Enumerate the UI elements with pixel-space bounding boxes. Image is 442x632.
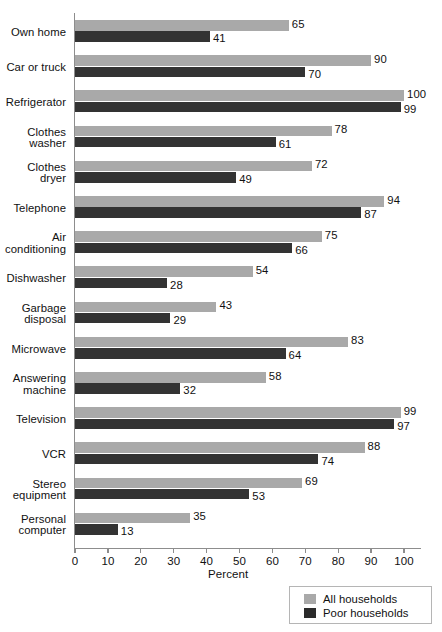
bar-value-label: 69 bbox=[305, 475, 318, 487]
bar-poor-households bbox=[75, 313, 170, 324]
x-axis-line bbox=[74, 548, 421, 549]
bar-value-label: 49 bbox=[239, 173, 252, 185]
bar-value-label: 94 bbox=[387, 194, 400, 206]
category-label: Television bbox=[0, 414, 66, 426]
x-tick-mark bbox=[206, 548, 207, 553]
bar-poor-households bbox=[75, 524, 118, 535]
bar-all-households bbox=[75, 161, 312, 172]
x-tick-label: 10 bbox=[101, 555, 114, 567]
bar-value-label: 58 bbox=[269, 370, 282, 382]
category-label: Own home bbox=[0, 27, 66, 39]
bar-poor-households bbox=[75, 67, 305, 78]
bar-value-label: 65 bbox=[292, 18, 305, 30]
x-tick-mark bbox=[272, 548, 273, 553]
legend-label-all: All households bbox=[323, 593, 397, 605]
category-label: Microwave bbox=[0, 344, 66, 356]
bar-all-households bbox=[75, 20, 289, 31]
bar-value-label: 83 bbox=[351, 334, 364, 346]
bar-all-households bbox=[75, 478, 302, 489]
x-tick-mark bbox=[107, 548, 108, 553]
x-tick-mark bbox=[305, 548, 306, 553]
bar-poor-households bbox=[75, 137, 276, 148]
x-tick-label: 70 bbox=[299, 555, 312, 567]
category-label: VCR bbox=[0, 449, 66, 461]
bar-all-households bbox=[75, 196, 384, 207]
bar-poor-households bbox=[75, 207, 361, 218]
bar-value-label: 28 bbox=[170, 279, 183, 291]
category-label: Clotheswasher bbox=[0, 127, 66, 150]
x-tick-label: 20 bbox=[134, 555, 147, 567]
bar-value-label: 97 bbox=[397, 420, 410, 432]
legend-item-all-households: All households bbox=[304, 592, 397, 606]
x-tick-mark bbox=[338, 548, 339, 553]
x-tick-label: 0 bbox=[72, 555, 79, 567]
bar-value-label: 100 bbox=[407, 88, 426, 100]
bar-value-label: 41 bbox=[213, 32, 226, 44]
x-tick-mark bbox=[140, 548, 141, 553]
bar-poor-households bbox=[75, 419, 394, 430]
bar-all-households bbox=[75, 266, 253, 277]
legend-swatch-icon-poor bbox=[304, 608, 316, 618]
bar-value-label: 90 bbox=[374, 53, 387, 65]
category-label: Clothesdryer bbox=[0, 162, 66, 185]
x-axis-title: Percent bbox=[208, 568, 248, 580]
bar-value-label: 75 bbox=[325, 229, 338, 241]
chart-legend: All households Poor households bbox=[289, 586, 432, 624]
bar-all-households bbox=[75, 55, 371, 66]
x-tick-label: 90 bbox=[365, 555, 378, 567]
x-tick-label: 50 bbox=[233, 555, 246, 567]
x-tick-mark bbox=[403, 548, 404, 553]
bar-value-label: 43 bbox=[219, 299, 232, 311]
bar-all-households bbox=[75, 302, 216, 313]
category-label: Airconditioning bbox=[0, 232, 66, 255]
category-label: Personalcomputer bbox=[0, 514, 66, 537]
bar-value-label: 66 bbox=[295, 244, 308, 256]
bar-chart: 0102030405060708090100 Own home6541Car o… bbox=[0, 0, 442, 632]
bar-value-label: 99 bbox=[404, 103, 417, 115]
x-tick-mark bbox=[239, 548, 240, 553]
bar-value-label: 72 bbox=[315, 158, 328, 170]
bar-poor-households bbox=[75, 454, 318, 465]
bar-value-label: 13 bbox=[121, 525, 134, 537]
bar-value-label: 53 bbox=[252, 490, 265, 502]
bar-value-label: 64 bbox=[289, 349, 302, 361]
bar-poor-households bbox=[75, 31, 210, 42]
x-tick-label: 30 bbox=[167, 555, 180, 567]
category-label: Refrigerator bbox=[0, 97, 66, 109]
category-label: Garbagedisposal bbox=[0, 303, 66, 326]
category-label: Car or truck bbox=[0, 62, 66, 74]
category-label: Telephone bbox=[0, 203, 66, 215]
bar-all-households bbox=[75, 407, 401, 418]
x-tick-mark bbox=[74, 548, 75, 553]
bar-value-label: 61 bbox=[279, 138, 292, 150]
bar-poor-households bbox=[75, 243, 292, 254]
bar-all-households bbox=[75, 90, 404, 101]
bar-poor-households bbox=[75, 102, 401, 113]
bar-all-households bbox=[75, 442, 365, 453]
legend-item-poor-households: Poor households bbox=[304, 606, 409, 620]
bar-poor-households bbox=[75, 278, 167, 289]
x-tick-label: 100 bbox=[394, 555, 414, 567]
bar-value-label: 88 bbox=[368, 440, 381, 452]
bar-value-label: 78 bbox=[335, 123, 348, 135]
bar-poor-households bbox=[75, 348, 286, 359]
x-tick-label: 40 bbox=[200, 555, 213, 567]
bar-value-label: 32 bbox=[183, 384, 196, 396]
bar-value-label: 29 bbox=[173, 314, 186, 326]
bar-poor-households bbox=[75, 172, 236, 183]
bar-value-label: 54 bbox=[256, 264, 269, 276]
legend-label-poor: Poor households bbox=[323, 607, 409, 619]
bar-all-households bbox=[75, 337, 348, 348]
legend-swatch-icon-all bbox=[304, 594, 316, 604]
bar-all-households bbox=[75, 372, 266, 383]
bar-value-label: 99 bbox=[404, 405, 417, 417]
category-label: Stereoequipment bbox=[0, 479, 66, 502]
x-tick-mark bbox=[370, 548, 371, 553]
category-label: Dishwasher bbox=[0, 273, 66, 285]
bar-value-label: 35 bbox=[193, 510, 206, 522]
bar-value-label: 87 bbox=[364, 208, 377, 220]
bar-value-label: 74 bbox=[321, 455, 334, 467]
bar-value-label: 70 bbox=[308, 68, 321, 80]
bar-all-households bbox=[75, 513, 190, 524]
bar-poor-households bbox=[75, 489, 249, 500]
